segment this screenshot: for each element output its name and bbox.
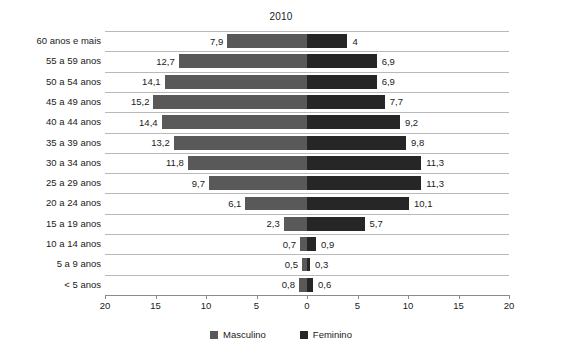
chart-row: 13,29,8 xyxy=(105,133,509,153)
category-label: 30 a 34 anos xyxy=(2,153,101,173)
category-label: 10 a 14 anos xyxy=(2,234,101,254)
axis-tick xyxy=(358,295,359,299)
bar-value-masculino: 0,5 xyxy=(285,257,298,272)
bar-feminino xyxy=(307,136,406,150)
axis-tick xyxy=(257,295,258,299)
chart-row: 2,35,7 xyxy=(105,214,509,234)
chart-row: 12,76,9 xyxy=(105,51,509,71)
chart-row: 14,16,9 xyxy=(105,72,509,92)
bar-masculino xyxy=(165,75,307,89)
category-label: 5 a 9 anos xyxy=(2,254,101,274)
category-label: 20 a 24 anos xyxy=(2,193,101,213)
chart-row: 0,50,3 xyxy=(105,254,509,274)
axis-tick xyxy=(206,295,207,299)
bar-feminino xyxy=(307,54,377,68)
bar-feminino xyxy=(307,75,377,89)
bar-feminino xyxy=(307,156,421,170)
bar-value-feminino: 0,3 xyxy=(315,257,328,272)
bar-feminino xyxy=(307,34,347,48)
category-label: 40 a 44 anos xyxy=(2,112,101,132)
bar-value-masculino: 13,2 xyxy=(151,135,170,150)
axis-tick-label: 5 xyxy=(338,300,378,311)
chart-row: 15,27,7 xyxy=(105,92,509,112)
bar-masculino xyxy=(227,34,307,48)
bar-value-feminino: 11,3 xyxy=(426,176,444,191)
bar-masculino xyxy=(188,156,307,170)
chart-legend: MasculinoFeminino xyxy=(0,329,562,340)
category-label: < 5 anos xyxy=(2,275,101,295)
axis-tick xyxy=(459,295,460,299)
bar-value-feminino: 7,7 xyxy=(390,94,403,109)
bar-value-feminino: 5,7 xyxy=(370,216,383,231)
bar-value-feminino: 6,9 xyxy=(382,74,395,89)
bar-value-feminino: 0,9 xyxy=(321,237,334,252)
bar-feminino xyxy=(307,176,421,190)
axis-tick-label: 20 xyxy=(489,300,529,311)
chart-row: 0,70,9 xyxy=(105,234,509,254)
bar-value-feminino: 9,2 xyxy=(405,115,418,130)
bar-value-masculino: 0,8 xyxy=(282,277,295,292)
chart-row: 11,811,3 xyxy=(105,153,509,173)
axis-tick-label: 15 xyxy=(439,300,479,311)
bar-feminino xyxy=(307,197,409,211)
bar-value-masculino: 15,2 xyxy=(131,94,150,109)
bar-value-masculino: 2,3 xyxy=(267,216,280,231)
axis-tick-label: 0 xyxy=(287,300,327,311)
bar-masculino xyxy=(153,95,307,109)
axis-tick xyxy=(408,295,409,299)
legend-label: Masculino xyxy=(223,329,266,340)
bar-masculino xyxy=(162,115,307,129)
bar-masculino xyxy=(299,278,307,292)
axis-tick xyxy=(509,295,510,299)
axis-tick-label: 5 xyxy=(237,300,277,311)
category-axis-labels: 60 anos e mais55 a 59 anos50 a 54 anos45… xyxy=(0,31,101,295)
plot-area: 7,9412,76,914,16,915,27,714,49,213,29,81… xyxy=(105,31,509,295)
category-label: 25 a 29 anos xyxy=(2,173,101,193)
category-label: 50 a 54 anos xyxy=(2,72,101,92)
legend-swatch-icon xyxy=(210,331,218,339)
bar-value-feminino: 6,9 xyxy=(382,54,395,69)
category-label: 60 anos e mais xyxy=(2,31,101,51)
bar-value-masculino: 9,7 xyxy=(192,176,205,191)
axis-tick xyxy=(156,295,157,299)
legend-item[interactable]: Feminino xyxy=(300,329,352,340)
chart-row: 7,94 xyxy=(105,31,509,51)
chart-row: 9,711,3 xyxy=(105,173,509,193)
bar-masculino xyxy=(174,136,307,150)
legend-label: Feminino xyxy=(313,329,352,340)
category-label: 35 a 39 anos xyxy=(2,133,101,153)
bar-value-masculino: 0,7 xyxy=(283,237,296,252)
chart-row: 6,110,1 xyxy=(105,193,509,213)
bar-value-feminino: 10,1 xyxy=(414,196,433,211)
legend-item[interactable]: Masculino xyxy=(210,329,266,340)
chart-row: 14,49,2 xyxy=(105,112,509,132)
bar-feminino xyxy=(307,237,316,251)
bar-value-masculino: 14,4 xyxy=(139,115,158,130)
chart-row: 0,80,6 xyxy=(105,275,509,295)
bar-feminino xyxy=(307,217,365,231)
axis-tick-label: 20 xyxy=(85,300,125,311)
bar-feminino xyxy=(307,278,313,292)
bar-value-feminino: 4 xyxy=(352,34,357,49)
axis-tick xyxy=(307,295,308,299)
axis-tick xyxy=(105,295,106,299)
bar-masculino xyxy=(209,176,307,190)
population-pyramid-chart: 2010 60 anos e mais55 a 59 anos50 a 54 a… xyxy=(0,0,562,355)
axis-tick-label: 10 xyxy=(186,300,226,311)
chart-title: 2010 xyxy=(0,11,562,22)
bar-value-masculino: 12,7 xyxy=(156,54,175,69)
bar-value-masculino: 6,1 xyxy=(228,196,241,211)
bar-value-masculino: 11,8 xyxy=(166,155,184,170)
bar-feminino xyxy=(307,95,385,109)
axis-tick-label: 10 xyxy=(388,300,428,311)
bar-value-feminino: 11,3 xyxy=(426,155,444,170)
bar-masculino xyxy=(284,217,307,231)
bar-value-masculino: 14,1 xyxy=(142,74,161,89)
category-label: 55 a 59 anos xyxy=(2,51,101,71)
bar-masculino xyxy=(300,237,307,251)
bar-feminino xyxy=(307,115,400,129)
bar-value-feminino: 0,6 xyxy=(318,277,331,292)
category-label: 15 a 19 anos xyxy=(2,214,101,234)
bar-masculino xyxy=(245,197,307,211)
bar-masculino xyxy=(179,54,307,68)
